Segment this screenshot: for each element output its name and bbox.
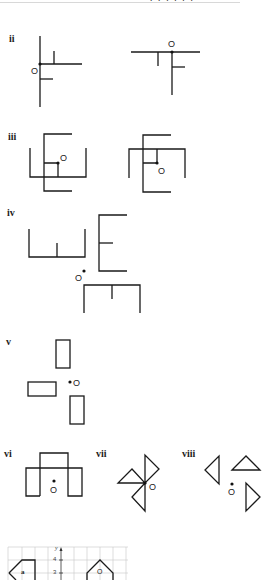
centre-point-icon bbox=[170, 50, 173, 53]
centre-point-icon bbox=[68, 380, 71, 383]
figure-viii: O bbox=[205, 456, 260, 511]
figure-ii-left: O bbox=[31, 36, 82, 107]
svg-text:O: O bbox=[168, 39, 175, 49]
coordinate-grid bbox=[8, 547, 128, 580]
figures-canvas: O O O O bbox=[0, 0, 268, 580]
svg-text:O: O bbox=[73, 378, 80, 388]
figure-v: O bbox=[28, 340, 84, 424]
textbook-page: · · · · · · ii iii iv v vi vii viii O O bbox=[0, 0, 268, 580]
svg-text:O: O bbox=[149, 482, 156, 492]
svg-text:O: O bbox=[228, 487, 235, 497]
y-axis bbox=[59, 547, 63, 580]
y-axis-label: y bbox=[55, 545, 58, 551]
svg-text:O: O bbox=[75, 273, 82, 283]
centre-point-icon bbox=[38, 62, 41, 65]
shape-a-label: a bbox=[21, 568, 25, 576]
centre-point-icon bbox=[230, 482, 233, 485]
figure-ii-right: O bbox=[131, 39, 200, 95]
figure-vi: O bbox=[26, 453, 82, 496]
figure-iv: O bbox=[29, 215, 140, 313]
figure-iii-right: O bbox=[129, 135, 185, 192]
svg-text:O: O bbox=[50, 485, 57, 495]
y-tick-3: 3 bbox=[53, 569, 56, 575]
centre-point-icon bbox=[155, 161, 158, 164]
figure-iii-left: O bbox=[30, 134, 86, 191]
svg-text:O: O bbox=[158, 166, 165, 176]
svg-text:O: O bbox=[31, 66, 38, 76]
figure-vii: O bbox=[118, 455, 159, 511]
svg-text:O: O bbox=[60, 153, 67, 163]
centre-point-icon bbox=[143, 481, 146, 484]
centre-point-icon bbox=[52, 479, 55, 482]
shape-o-label: O bbox=[97, 568, 102, 575]
centre-point-icon bbox=[82, 269, 85, 272]
y-tick-4: 4 bbox=[53, 556, 56, 562]
arrow-up-icon bbox=[60, 547, 63, 551]
